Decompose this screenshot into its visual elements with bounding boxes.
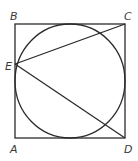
label-b: B xyxy=(10,10,18,23)
segment-ec xyxy=(15,24,125,64)
label-a: A xyxy=(9,143,18,156)
label-c: C xyxy=(124,10,132,23)
inscribed-circle xyxy=(15,24,125,138)
segment-ed xyxy=(15,64,125,138)
geometry-figure: B C E A D xyxy=(0,0,138,161)
label-d: D xyxy=(124,143,132,156)
label-e: E xyxy=(5,60,12,73)
